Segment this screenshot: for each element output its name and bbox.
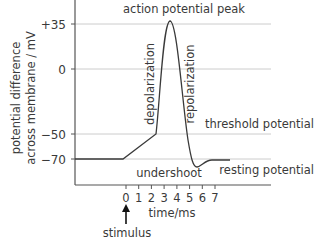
x-ticks: [126, 185, 215, 189]
x-axis-label: time/ms: [148, 206, 195, 220]
y-tick-label: 0: [58, 63, 66, 77]
x-tick-label: 7: [211, 191, 218, 205]
y-tick-label: −70: [41, 153, 66, 167]
peak-label: action potential peak: [123, 2, 245, 16]
x-tick-label: 5: [186, 191, 193, 205]
x-tick-label: 4: [173, 191, 180, 205]
repolarization-label: repolarization: [183, 44, 197, 123]
depolarization-label: depolarization: [143, 43, 157, 125]
y-axis-label-line2: across membrane / mV: [24, 31, 38, 165]
undershoot-label: undershoot: [136, 166, 202, 180]
action-potential-diagram: +35 0 −50 −70 potential difference acros…: [0, 0, 316, 240]
x-tick-label: 0: [122, 191, 129, 205]
resting-label: resting potential: [219, 163, 314, 177]
threshold-label: threshold potential: [205, 117, 314, 131]
x-tick-label: 3: [160, 191, 167, 205]
stimulus-arrow-icon: [122, 204, 130, 224]
y-axis-label-line1: potential difference: [9, 42, 23, 155]
x-tick-label: 1: [135, 191, 142, 205]
x-tick-label: 2: [148, 191, 155, 205]
x-tick-label: 6: [199, 191, 206, 205]
y-tick-label: +35: [41, 18, 66, 32]
y-tick-label: −50: [41, 128, 66, 142]
stimulus-label: stimulus: [103, 226, 152, 240]
